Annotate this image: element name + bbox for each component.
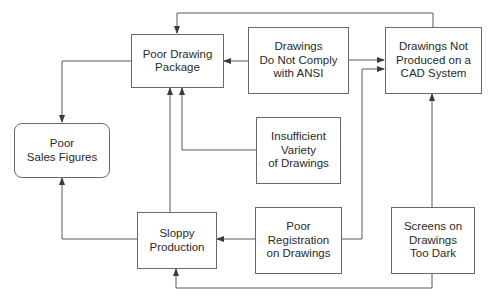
node-insufficient-variety: Insufficient Variety of Drawings	[256, 117, 341, 184]
node-sloppy-production: Sloppy Production	[137, 212, 217, 269]
node-text-line: Sales Figures	[27, 151, 97, 165]
node-poor-drawing-package: Poor Drawing Package	[131, 34, 224, 88]
node-text-line: with ANSI	[274, 67, 324, 81]
node-text-line: Too Dark	[410, 247, 456, 261]
node-screens-too-dark: Screens on Drawings Too Dark	[391, 207, 475, 274]
node-poor-registration: Poor Registration on Drawings	[255, 207, 342, 274]
node-text-line: Variety	[281, 144, 316, 158]
node-text-line: of Drawings	[268, 157, 329, 171]
node-text-line: Produced on a	[396, 54, 471, 68]
node-text-line: Poor Drawing	[143, 48, 213, 62]
node-text-line: Registration	[268, 234, 329, 248]
node-text-line: Package	[155, 61, 200, 75]
node-text-line: Drawings Not	[399, 40, 468, 54]
node-drawings-do-not-comply-ansi: Drawings Do Not Comply with ANSI	[248, 27, 349, 94]
node-text-line: Poor	[50, 137, 74, 151]
node-text-line: on Drawings	[267, 247, 331, 261]
node-text-line: CAD System	[401, 67, 467, 81]
node-text-line: Drawings	[275, 40, 323, 54]
node-text-line: Production	[150, 241, 205, 255]
node-text-line: Sloppy	[159, 227, 194, 241]
node-drawings-not-produced-cad: Drawings Not Produced on a CAD System	[385, 27, 482, 94]
edge-sloppy-to-sales	[62, 178, 137, 239]
edge-variety-to-package	[182, 88, 256, 150]
node-text-line: Poor	[286, 220, 310, 234]
edge-package-to-sales	[62, 61, 131, 122]
edge-registration-to-cad	[341, 69, 384, 239]
node-poor-sales-figures: Poor Sales Figures	[14, 123, 110, 178]
node-text-line: Do Not Comply	[260, 54, 338, 68]
node-text-line: Screens on	[404, 220, 462, 234]
node-text-line: Insufficient	[271, 130, 326, 144]
node-text-line: Drawings	[409, 234, 457, 248]
